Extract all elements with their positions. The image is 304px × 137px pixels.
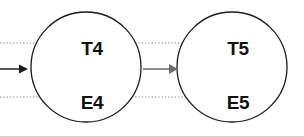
node-label-t5: T5	[227, 38, 249, 59]
edge-stage4-stage5	[143, 64, 178, 74]
edge-in-middle	[0, 65, 28, 74]
diagram-svg: T4 E4 T5 E5	[0, 0, 304, 137]
node-stage-4[interactable]: T4 E4	[31, 12, 141, 122]
node-label-e5: E5	[227, 92, 250, 113]
node-label-t4: T4	[81, 38, 103, 59]
node-stage-5[interactable]: T5 E5	[177, 12, 287, 122]
node-label-e4: E4	[81, 92, 104, 113]
edge-in-middle-arrowhead	[19, 65, 28, 74]
diagram-canvas: T4 E4 T5 E5	[0, 0, 304, 137]
